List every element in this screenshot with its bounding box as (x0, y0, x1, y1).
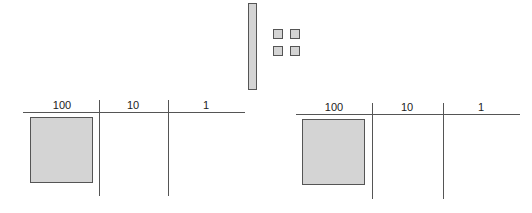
header-ones: 1 (461, 101, 501, 113)
header-divider (23, 112, 245, 113)
unit-cube-4 (290, 46, 300, 56)
header-ones: 1 (186, 99, 226, 111)
unit-cube-1 (273, 29, 283, 39)
unit-cube-3 (273, 46, 283, 56)
column-divider-1 (99, 100, 100, 196)
header-tens: 10 (387, 101, 427, 113)
header-hundreds: 100 (42, 99, 82, 111)
column-divider-2 (443, 103, 444, 199)
ten-rod-block (248, 3, 257, 90)
column-divider-1 (372, 103, 373, 199)
header-divider (296, 114, 520, 115)
unit-cube-2 (290, 29, 300, 39)
header-tens: 10 (113, 99, 153, 111)
hundreds-flat-block (302, 119, 365, 185)
column-divider-2 (168, 100, 169, 196)
header-hundreds: 100 (314, 101, 354, 113)
hundreds-flat-block (30, 117, 93, 183)
